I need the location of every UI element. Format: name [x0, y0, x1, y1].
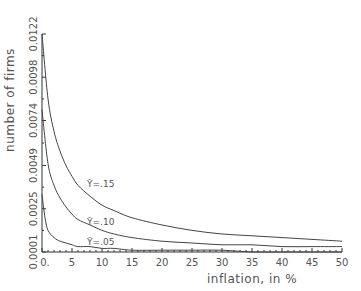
- y-tick-label: 0.0098: [28, 60, 39, 95]
- x-tick-label: 0.: [40, 257, 50, 268]
- y-tick-label: 0.0074: [28, 103, 39, 138]
- x-tick-label: 50: [336, 257, 349, 268]
- y-tick-label: 0.0049: [28, 148, 39, 183]
- x-tick-label: 25: [186, 257, 199, 268]
- x-tick-label: 10: [96, 257, 109, 268]
- x-tick-label: 45: [306, 257, 319, 268]
- curve-annotation: Ȳ=.10: [86, 217, 115, 227]
- series-line-0: [42, 34, 342, 241]
- x-axis-label: inflation, in %: [207, 272, 297, 286]
- curve-annotation: Ȳ=.15: [86, 179, 114, 189]
- x-tick-label: 20: [156, 257, 169, 268]
- x-tick-label: 15: [126, 257, 139, 268]
- curve-annotation: Ȳ=.05: [86, 237, 114, 247]
- x-tick-label: 5: [69, 257, 75, 268]
- annotations: Ȳ=.15Ȳ=.10Ȳ=.05: [86, 179, 115, 247]
- x-tick-label: 40: [276, 257, 289, 268]
- x-tick-label: 30: [216, 257, 229, 268]
- y-tick-label: 0.0001: [28, 235, 39, 270]
- chart: 0.51015202530354045500.00010.00250.00490…: [0, 0, 361, 291]
- y-tick-label: 0.0122: [28, 17, 39, 52]
- y-axis-label: number of firms: [3, 48, 17, 152]
- y-tick-label: 0.0025: [28, 191, 39, 226]
- x-tick-label: 35: [246, 257, 259, 268]
- ticks: 0.51015202530354045500.00010.00250.00490…: [28, 17, 348, 270]
